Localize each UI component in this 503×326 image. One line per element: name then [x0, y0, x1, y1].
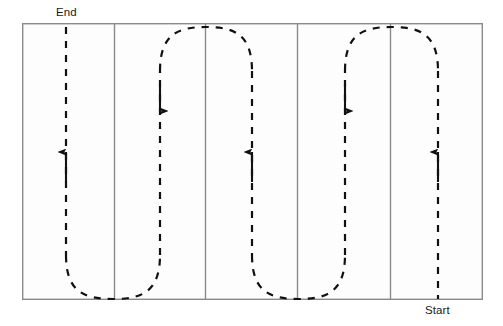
path-diagram-canvas: [0, 0, 503, 326]
start-label: Start: [425, 304, 450, 317]
coverage-path-diagram: End Start: [0, 0, 503, 326]
end-label: End: [56, 6, 77, 19]
